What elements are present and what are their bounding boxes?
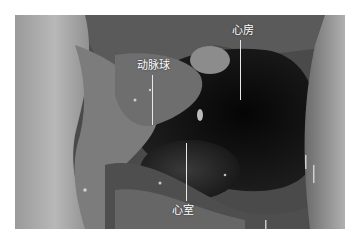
leader-line-conus [152, 75, 153, 125]
anatomy-photo [15, 15, 345, 229]
leader-line-ventricle [186, 143, 187, 201]
label-atrium: 心房 [232, 25, 254, 37]
photo-illustration [15, 15, 345, 229]
leader-line-atrium [240, 40, 241, 100]
label-conus-arteriosus: 动脉球 [137, 60, 170, 72]
label-ventricle: 心室 [172, 205, 194, 217]
